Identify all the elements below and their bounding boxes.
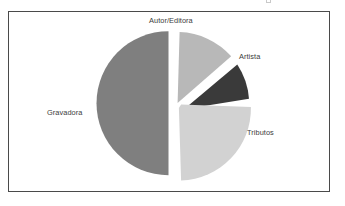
pie-chart-figure: Autor/Editora Artista Tributos Gravadora (0, 0, 345, 206)
pie-slices (97, 31, 251, 180)
pie-svg (0, 0, 345, 206)
pie-slice-gravadora[interactable] (97, 31, 169, 175)
pie-label-autor-editora: Autor/Editora (149, 16, 193, 25)
chart-plot-area: Autor/Editora Artista Tributos Gravadora (0, 0, 345, 206)
pie-label-tributos: Tributos (247, 128, 274, 137)
pie-label-artista: Artista (239, 52, 260, 61)
pie-slice-tributos[interactable] (179, 105, 251, 181)
pie-label-gravadora: Gravadora (47, 108, 82, 117)
